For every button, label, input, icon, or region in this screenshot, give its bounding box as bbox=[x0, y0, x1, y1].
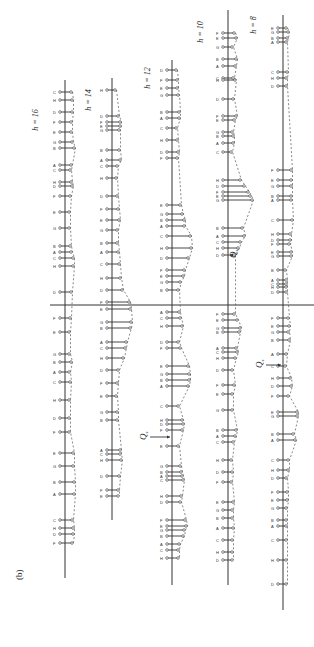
stick-start-marker bbox=[277, 27, 280, 30]
stick-start-marker bbox=[222, 131, 225, 134]
stick-end-marker bbox=[176, 139, 179, 142]
stick-end-marker bbox=[119, 277, 122, 280]
stick-start-marker bbox=[59, 371, 62, 374]
stick-code: H bbox=[271, 468, 274, 473]
stick-start-marker bbox=[106, 453, 109, 456]
stick-code: B bbox=[160, 288, 163, 293]
stick-code: H bbox=[100, 176, 103, 181]
stick-code: F bbox=[216, 480, 219, 485]
stick-code: E bbox=[160, 444, 163, 449]
stick-start-marker bbox=[277, 339, 280, 342]
stick-end-marker bbox=[290, 179, 293, 182]
stick-start-marker bbox=[166, 157, 169, 160]
stick-end-marker bbox=[71, 519, 74, 522]
stick-start-marker bbox=[277, 539, 280, 542]
stick-end-marker bbox=[290, 251, 293, 254]
stick-end-marker bbox=[290, 169, 293, 172]
stick-end-marker bbox=[117, 369, 120, 372]
stick-start-marker bbox=[277, 185, 280, 188]
stick-end-marker bbox=[289, 233, 292, 236]
stick-end-marker bbox=[232, 135, 235, 138]
stick-end-marker bbox=[232, 441, 235, 444]
stick-code: D bbox=[53, 184, 56, 189]
stick-start-marker bbox=[166, 117, 169, 120]
stick-end-marker bbox=[239, 179, 242, 182]
stick-start-marker bbox=[106, 129, 109, 132]
stick-end-marker bbox=[179, 204, 182, 207]
stick-end-marker bbox=[290, 195, 293, 198]
stick-start-marker bbox=[277, 31, 280, 34]
stick-end-marker bbox=[68, 417, 71, 420]
stick-start-marker bbox=[277, 317, 280, 320]
stick-start-marker bbox=[59, 431, 62, 434]
stick-end-marker bbox=[116, 195, 119, 198]
stick-start-marker bbox=[106, 277, 109, 280]
stick-start-marker bbox=[222, 313, 225, 316]
stick-end-marker bbox=[285, 283, 288, 286]
stick-code: H bbox=[271, 376, 274, 381]
stick-code: G bbox=[271, 506, 274, 511]
stick-start-marker bbox=[277, 219, 280, 222]
stick-code: C bbox=[100, 346, 103, 351]
stick-start-marker bbox=[106, 195, 109, 198]
stick-end-marker bbox=[182, 479, 185, 482]
stick-start-marker bbox=[222, 142, 225, 145]
stick-code: G bbox=[53, 464, 56, 469]
stick-code: C bbox=[53, 168, 56, 173]
stick-code: D bbox=[160, 150, 163, 155]
column-h10: h = 10FEGBACHDFEGBACHDFEGBACHDFEGBACHDFE… bbox=[196, 10, 254, 585]
stick-end-marker bbox=[230, 151, 233, 154]
arrowhead-icon bbox=[167, 436, 170, 439]
stick-start-marker bbox=[59, 481, 62, 484]
stick-start-marker bbox=[277, 469, 280, 472]
stick-start-marker bbox=[166, 445, 169, 448]
stick-start-marker bbox=[166, 365, 169, 368]
stick-end-marker bbox=[180, 471, 183, 474]
stick-end-marker bbox=[286, 37, 289, 40]
stick-end-marker bbox=[177, 549, 180, 552]
stick-start-marker bbox=[222, 151, 225, 154]
stick-end-marker bbox=[119, 159, 122, 162]
stick-code: C bbox=[271, 70, 274, 75]
stick-code: E bbox=[53, 330, 56, 335]
stick-start-marker bbox=[166, 373, 169, 376]
stick-end-marker bbox=[183, 225, 186, 228]
stick-end-marker bbox=[70, 91, 73, 94]
stick-end-marker bbox=[284, 365, 287, 368]
stick-start-marker bbox=[106, 251, 109, 254]
stick-end-marker bbox=[119, 125, 122, 128]
stick-end-marker bbox=[72, 533, 75, 536]
stick-end-marker bbox=[290, 385, 293, 388]
stick-end-marker bbox=[176, 87, 179, 90]
stick-start-marker bbox=[166, 269, 169, 272]
stick-end-marker bbox=[231, 551, 234, 554]
stick-start-marker bbox=[277, 77, 280, 80]
stick-code: G bbox=[271, 330, 274, 335]
stick-code: A bbox=[100, 158, 103, 163]
stick-end-marker bbox=[235, 115, 238, 118]
stick-code: A bbox=[100, 250, 103, 255]
stick-start-marker bbox=[166, 501, 169, 504]
stick-code: C bbox=[100, 262, 103, 267]
stick-code: E bbox=[100, 218, 103, 223]
stick-code: A bbox=[53, 250, 56, 255]
stick-end-marker bbox=[288, 339, 291, 342]
stick-end-marker bbox=[68, 211, 71, 214]
stick-start-marker bbox=[222, 551, 225, 554]
stick-end-marker bbox=[119, 121, 122, 124]
stick-code: D bbox=[100, 474, 103, 479]
q-label: Qs bbox=[138, 432, 149, 441]
stick-start-marker bbox=[106, 308, 109, 311]
stick-code: H bbox=[271, 232, 274, 237]
stick-start-marker bbox=[166, 341, 169, 344]
stick-start-marker bbox=[166, 347, 169, 350]
stick-code: G bbox=[271, 30, 274, 35]
stick-start-marker bbox=[277, 411, 280, 414]
stick-start-marker bbox=[222, 46, 225, 49]
stick-code: C bbox=[216, 440, 219, 445]
stick-code: E bbox=[53, 451, 56, 456]
stick-start-marker bbox=[166, 529, 169, 532]
stick-start-marker bbox=[59, 452, 62, 455]
stick-code: C bbox=[160, 548, 163, 553]
stick-start-marker bbox=[166, 247, 169, 250]
